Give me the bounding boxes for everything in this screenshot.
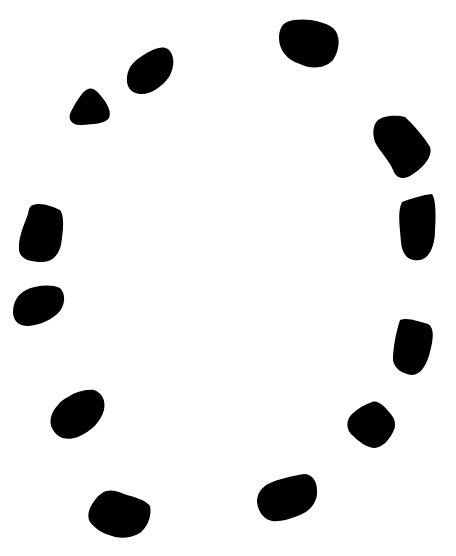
- blob-right-middle: [399, 194, 435, 260]
- blob-canvas: [0, 0, 456, 556]
- ink-blob-ring: [0, 0, 456, 556]
- background: [0, 0, 456, 556]
